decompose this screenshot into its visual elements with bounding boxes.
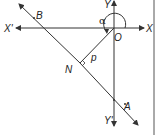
label-y: Y (104, 0, 112, 10)
line-ab-upper (19, 4, 80, 63)
label-b: B (36, 10, 43, 21)
label-origin: O (114, 32, 122, 43)
label-a: A (123, 101, 131, 112)
label-y-prime: Y' (104, 115, 114, 126)
perpendicular-on (80, 28, 114, 63)
point-intersection-y (113, 99, 115, 101)
label-x-prime: X' (3, 23, 14, 34)
label-alpha: α (99, 15, 106, 26)
label-x: X (145, 23, 153, 34)
label-p: p (90, 52, 97, 63)
point-b (33, 17, 35, 19)
normal-form-diagram: Y Y' X X' O B A N p α (0, 0, 161, 135)
right-angle-marker (83, 61, 86, 66)
label-n: N (65, 64, 73, 75)
